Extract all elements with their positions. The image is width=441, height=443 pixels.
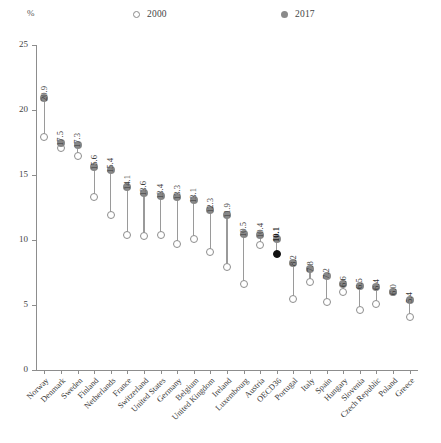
data-value-label: 13.4 — [155, 184, 165, 199]
connector-stem — [193, 200, 194, 239]
data-value-label: 6.6 — [338, 276, 348, 287]
data-point-2000[interactable] — [339, 288, 347, 296]
data-value-label: 13.3 — [172, 185, 182, 200]
x-axis-tick — [194, 370, 195, 374]
data-value-label: 12.3 — [205, 198, 215, 213]
data-point-2000[interactable] — [107, 211, 115, 219]
data-point-2000[interactable] — [140, 232, 148, 240]
x-axis-tick — [210, 370, 211, 374]
y-axis-line — [36, 45, 37, 370]
data-value-label: 17.5 — [55, 130, 65, 145]
data-point-2000[interactable] — [123, 231, 131, 239]
data-value-label: 5.4 — [404, 292, 414, 303]
data-value-label: 10.5 — [238, 221, 248, 236]
connector-stem — [110, 170, 111, 216]
x-axis-tick — [293, 370, 294, 374]
data-value-label: 7.8 — [305, 261, 315, 272]
data-point-2000[interactable] — [273, 250, 281, 258]
connector-stem — [210, 210, 211, 252]
data-value-label: 10.1 — [271, 227, 281, 242]
data-value-label: 6.4 — [371, 279, 381, 290]
data-point-2000[interactable] — [289, 295, 297, 303]
y-axis-tick-label: 5 — [6, 299, 28, 309]
x-axis-tick — [144, 370, 145, 374]
chart-container: % 2000 2017 252015105020.9Norway17.5Denm… — [0, 0, 441, 443]
data-point-2000[interactable] — [240, 280, 248, 288]
data-value-label: 7.2 — [321, 269, 331, 280]
connector-stem — [127, 187, 128, 235]
connector-stem — [44, 98, 45, 137]
connector-stem — [160, 196, 161, 235]
data-value-label: 14.1 — [122, 175, 132, 190]
x-axis-tick — [44, 370, 45, 374]
data-point-2000[interactable] — [323, 298, 331, 306]
y-axis-tick — [32, 45, 36, 46]
data-point-2000[interactable] — [406, 313, 414, 321]
data-point-2000[interactable] — [40, 133, 48, 141]
data-point-2000[interactable] — [356, 306, 364, 314]
data-value-label: 6.5 — [354, 278, 364, 289]
x-axis-tick — [360, 370, 361, 374]
x-axis-tick — [177, 370, 178, 374]
data-value-label: 15.4 — [105, 158, 115, 173]
x-axis-tick — [376, 370, 377, 374]
x-axis-tick — [310, 370, 311, 374]
data-value-label: 20.9 — [39, 86, 49, 101]
data-point-2000[interactable] — [206, 248, 214, 256]
data-value-label: 17.3 — [72, 133, 82, 148]
data-point-2000[interactable] — [74, 152, 82, 160]
y-axis-tick — [32, 240, 36, 241]
x-axis-tick — [244, 370, 245, 374]
x-axis-tick — [277, 370, 278, 374]
y-axis-tick-label: 0 — [6, 364, 28, 374]
connector-stem — [226, 215, 227, 267]
connector-stem — [177, 197, 178, 244]
x-axis-tick — [94, 370, 95, 374]
y-axis-tick — [32, 305, 36, 306]
data-value-label: 6.0 — [388, 284, 398, 295]
data-point-2000[interactable] — [90, 193, 98, 201]
x-axis-tick — [260, 370, 261, 374]
data-point-2000[interactable] — [223, 263, 231, 271]
x-axis-tick — [227, 370, 228, 374]
data-point-2000[interactable] — [372, 300, 380, 308]
y-axis-tick — [32, 370, 36, 371]
connector-stem — [293, 263, 294, 298]
data-point-2000[interactable] — [173, 240, 181, 248]
data-point-2000[interactable] — [157, 231, 165, 239]
data-value-label: 13.1 — [188, 188, 198, 203]
x-axis-tick — [393, 370, 394, 374]
data-point-2000[interactable] — [256, 241, 264, 249]
x-axis-tick — [327, 370, 328, 374]
data-value-label: 8.2 — [288, 256, 298, 267]
x-axis-tick — [111, 370, 112, 374]
connector-stem — [243, 234, 244, 285]
data-value-label: 13.6 — [138, 181, 148, 196]
x-axis-tick — [410, 370, 411, 374]
data-point-2000[interactable] — [190, 235, 198, 243]
y-axis-tick-label: 15 — [6, 169, 28, 179]
y-axis-tick-label: 20 — [6, 104, 28, 114]
y-axis-tick — [32, 175, 36, 176]
x-axis-tick — [61, 370, 62, 374]
x-axis-tick — [343, 370, 344, 374]
data-value-label: 15.6 — [89, 155, 99, 170]
x-axis-tick — [127, 370, 128, 374]
plot-area: 252015105020.9Norway17.5Denmark17.3Swede… — [0, 0, 441, 443]
y-axis-tick-label: 25 — [6, 39, 28, 49]
x-axis-tick — [161, 370, 162, 374]
y-axis-tick — [32, 110, 36, 111]
data-value-label: 11.9 — [222, 204, 232, 219]
x-axis-tick — [78, 370, 79, 374]
y-axis-tick-label: 10 — [6, 234, 28, 244]
connector-stem — [143, 193, 144, 236]
data-value-label: 10.4 — [255, 223, 265, 238]
data-point-2000[interactable] — [306, 278, 314, 286]
